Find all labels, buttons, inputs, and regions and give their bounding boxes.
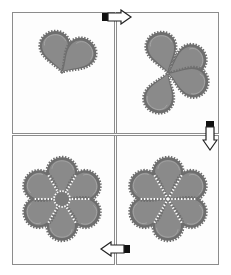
arrow-down-icon [202, 120, 218, 152]
flower-step-2 [140, 29, 213, 118]
flower-step-1 [37, 28, 103, 83]
diagram-canvas [0, 0, 231, 275]
center-disc [54, 191, 70, 207]
flower-step-3 [124, 157, 211, 241]
arrow-right-icon [101, 9, 133, 25]
flowers-layer [18, 28, 212, 241]
arrow-left-icon [99, 241, 131, 257]
flower-step-4 [18, 157, 105, 241]
